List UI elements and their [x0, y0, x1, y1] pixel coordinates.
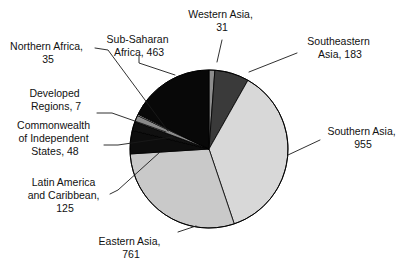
leader-southeastern-asia: [249, 53, 297, 72]
pie-chart-figure: Western Asia, 31 Southeastern Asia, 183 …: [0, 0, 405, 270]
chart-canvas: Western Asia, 31 Southeastern Asia, 183 …: [0, 0, 405, 270]
label-southeastern-asia: Southeastern Asia, 183: [307, 35, 372, 60]
label-western-asia: Western Asia, 31: [188, 8, 256, 33]
leader-southern-asia: [288, 140, 320, 155]
label-developed-regions: Developed Regions, 7: [29, 87, 82, 112]
leader-eastern-asia: [178, 226, 196, 232]
label-eastern-asia: Eastern Asia, 761: [99, 235, 164, 260]
label-sub-saharan-africa: Sub-Saharan Africa, 463: [107, 33, 172, 58]
label-commonwealth-independent-states: Commonwealth of Independent States, 48: [17, 119, 93, 157]
leader-western-asia: [217, 40, 222, 62]
pie-slices-group: [130, 70, 288, 228]
label-latin-america: Latin America and Caribbean, 125: [28, 176, 103, 214]
leader-subsaharan: [139, 56, 175, 75]
label-northern-africa: Northern Africa, 35: [10, 40, 86, 65]
label-southern-asia: Southern Asia, 955: [327, 125, 398, 150]
